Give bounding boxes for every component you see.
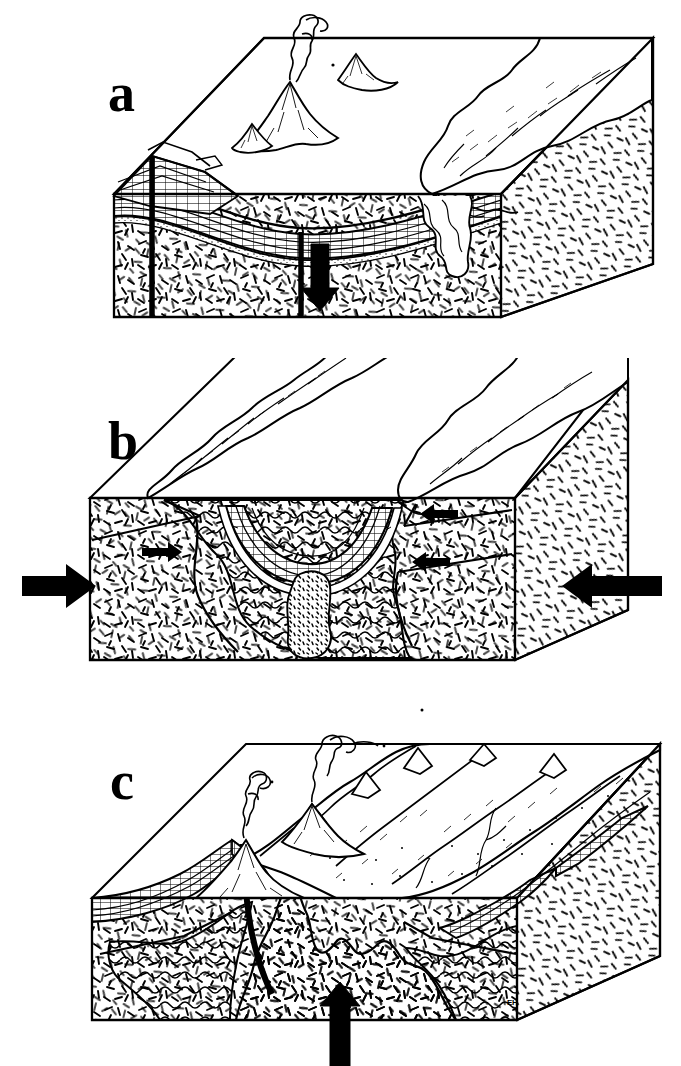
- compression-arrow-left-b: [22, 564, 96, 608]
- panel-a-subsidence: a Subsidence and sedimentation Block dia…: [0, 0, 681, 360]
- panel-label-b: b: [108, 414, 138, 468]
- artist-signature: EH: [507, 998, 518, 1007]
- panel-b-compression: b Compression, folding and thrusting The…: [0, 358, 681, 706]
- orogenic-evolution-figure: a Subsidence and sedimentation Block dia…: [0, 0, 681, 1066]
- panel-label-a: a: [108, 66, 135, 120]
- granitic-pluton-b: [287, 571, 331, 658]
- panel-label-c: c: [110, 754, 134, 808]
- panel-c-uplift-erosion: c EH Uplift, erosion and volcanism The o…: [0, 698, 681, 1066]
